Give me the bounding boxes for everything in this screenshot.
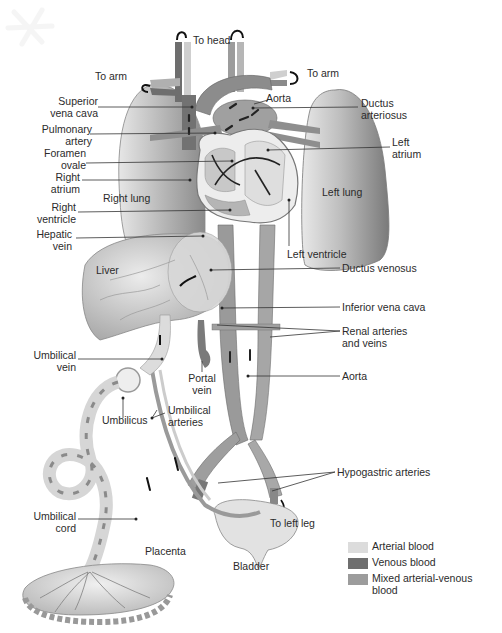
label-to-left-leg: To left leg — [270, 517, 315, 529]
label-umbilical-vein: Umbilical vein — [20, 349, 76, 373]
portal-vein — [197, 320, 210, 368]
label-portal-vein: Portal vein — [182, 372, 222, 396]
umbilicus — [116, 368, 140, 392]
label-foramen-ovale: Foramen ovale — [30, 147, 86, 171]
legend-swatch-venous — [348, 558, 368, 569]
descending-aorta — [250, 225, 275, 440]
label-to-head: To head — [193, 34, 230, 46]
label-liver: Liver — [96, 264, 119, 276]
label-hypogastric-arteries: Hypogastric arteries — [337, 466, 430, 478]
label-right-ventricle: Right ventricle — [20, 201, 76, 225]
label-to-arm-left: To arm — [95, 70, 127, 82]
label-left-ventricle: Left ventricle — [287, 248, 347, 260]
legend-swatch-mixed — [348, 574, 368, 585]
label-umbilical-cord: Umbilical cord — [20, 510, 76, 534]
label-left-atrium: Left atrium — [392, 136, 421, 160]
label-right-atrium: Right atrium — [30, 171, 80, 195]
umbilical-cord — [49, 382, 118, 570]
label-umbilicus: Umbilicus — [102, 414, 148, 426]
label-aorta-top: Aorta — [266, 92, 291, 104]
label-ductus-venosus: Ductus venosus — [342, 262, 417, 274]
label-pulmonary-artery: Pulmonary artery — [30, 123, 92, 147]
legend-swatch-arterial — [348, 542, 368, 553]
label-inferior-vena-cava: Inferior vena cava — [342, 301, 425, 313]
label-umbilical-arteries: Umbilical arteries — [168, 404, 211, 428]
label-to-arm-right: To arm — [307, 67, 339, 79]
label-aorta-bottom: Aorta — [342, 370, 367, 382]
label-right-lung: Right lung — [103, 192, 150, 204]
label-placenta: Placenta — [145, 545, 186, 557]
placenta — [23, 564, 174, 615]
label-bladder: Bladder — [233, 560, 269, 572]
label-renal-arteries-veins: Renal arteries and veins — [342, 325, 407, 349]
label-hepatic-vein: Hepatic vein — [20, 228, 72, 252]
label-superior-vena-cava: Superior vena cava — [40, 95, 98, 119]
label-ductus-arteriosus: Ductus arteriosus — [361, 97, 407, 121]
label-left-lung: Left lung — [322, 186, 362, 198]
watermark-icon — [8, 10, 52, 44]
bladder — [214, 500, 298, 568]
